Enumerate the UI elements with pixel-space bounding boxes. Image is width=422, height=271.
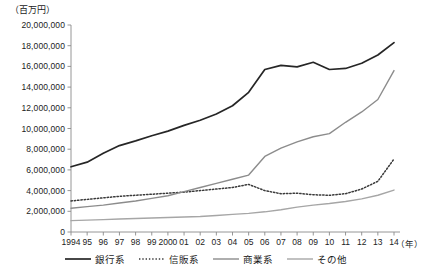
y-axis-tick-label: 20,000,000	[0, 20, 65, 30]
legend-swatch-0	[65, 255, 91, 263]
chart-series-group	[71, 43, 394, 221]
legend-swatch-1	[139, 255, 165, 263]
legend-label-0: 銀行系	[95, 252, 125, 266]
x-axis-tick-label: 98	[131, 237, 140, 247]
x-axis-tick-label: 08	[292, 237, 301, 247]
x-axis-tick-label: 01	[179, 237, 188, 247]
x-axis-tick-label: 02	[195, 237, 204, 247]
x-axis-tick-label: 04	[228, 237, 237, 247]
y-axis-tick-label: 0	[0, 227, 65, 237]
x-axis-tick-label: 1994	[62, 237, 81, 247]
x-axis-unit-label: （年）	[396, 237, 422, 249]
legend-swatch-2	[213, 255, 239, 263]
x-axis-tick-label: 06	[260, 237, 269, 247]
x-axis-tick-label: 07	[276, 237, 285, 247]
x-axis-tick-label: 95	[82, 237, 91, 247]
legend-label-2: 商業系	[243, 252, 273, 266]
x-axis-tick-label: 2000	[158, 237, 177, 247]
x-axis-tick-label: 10	[325, 237, 334, 247]
legend-label-3: その他	[317, 252, 347, 266]
legend-label-1: 信販系	[169, 252, 199, 266]
x-axis-tick-label: 97	[115, 237, 124, 247]
legend-item-3: その他	[287, 252, 347, 266]
y-axis-tick-label: 18,000,000	[0, 41, 65, 51]
series-line-0	[71, 43, 394, 167]
chart-legend: 銀行系信販系商業系その他	[0, 250, 411, 268]
legend-item-2: 商業系	[213, 252, 273, 266]
legend-swatch-3	[287, 255, 313, 263]
x-axis-tick-label: 03	[212, 237, 221, 247]
x-axis-tick-label: 99	[147, 237, 156, 247]
y-axis-tick-label: 14,000,000	[0, 82, 65, 92]
y-axis-tick-label: 8,000,000	[0, 144, 65, 154]
x-axis-tick-label: 96	[99, 237, 108, 247]
y-axis-tick-label: 16,000,000	[0, 61, 65, 71]
y-axis-tick-label: 4,000,000	[0, 186, 65, 196]
y-axis-tick-label: 12,000,000	[0, 103, 65, 113]
x-axis-tick-label: 05	[244, 237, 253, 247]
x-axis-tick-label: 13	[373, 237, 382, 247]
y-axis-tick-label: 6,000,000	[0, 165, 65, 175]
legend-item-0: 銀行系	[65, 252, 125, 266]
x-axis-tick-label: 12	[357, 237, 366, 247]
x-axis-tick-label: 11	[341, 237, 350, 247]
x-axis-tick-label: 09	[309, 237, 318, 247]
series-line-3	[71, 190, 394, 221]
y-axis-tick-label: 10,000,000	[0, 124, 65, 134]
series-line-1	[71, 159, 394, 201]
y-axis-tick-label: 2,000,000	[0, 206, 65, 216]
legend-item-1: 信販系	[139, 252, 199, 266]
